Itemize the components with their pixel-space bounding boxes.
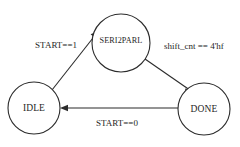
transition-label-start-eq-1: START==1 (35, 40, 77, 50)
state-label-done: DONE (191, 104, 218, 114)
state-diagram-canvas: IDLE SERI2PARL DONE START==1 shift_cnt =… (0, 0, 240, 147)
transition-label-start-eq-0: START==0 (96, 118, 138, 128)
transition-done-to-idle-arrowhead (60, 105, 68, 111)
state-node-done[interactable]: DONE (178, 83, 230, 135)
state-node-idle[interactable]: IDLE (8, 82, 60, 134)
state-label-seri2parl: SERI2PARL (100, 36, 143, 45)
transition-seri2parl-to-done-line (145, 59, 191, 91)
transition-seri2parl-to-done[interactable] (145, 59, 193, 93)
transition-done-to-idle[interactable] (60, 105, 178, 111)
state-label-idle: IDLE (23, 103, 45, 113)
transition-label-shift-cnt: shift_cnt == 4'hf (164, 41, 224, 51)
fsm-state-diagram: IDLE SERI2PARL DONE START==1 shift_cnt =… (0, 0, 240, 147)
state-node-seri2parl[interactable]: SERI2PARL (92, 14, 150, 72)
